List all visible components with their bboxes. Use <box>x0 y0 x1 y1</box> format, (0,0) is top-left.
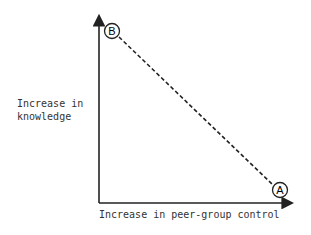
dashed-connector <box>119 37 272 184</box>
y-axis-label-line1: Increase in <box>17 98 83 110</box>
point-b-label: B <box>108 25 115 37</box>
x-axis-label: Increase in peer-group control <box>99 209 280 221</box>
y-axis-label-line2: knowledge <box>17 111 71 123</box>
point-a: A <box>273 183 288 198</box>
point-b: B <box>105 24 120 39</box>
point-a-label: A <box>276 184 284 196</box>
